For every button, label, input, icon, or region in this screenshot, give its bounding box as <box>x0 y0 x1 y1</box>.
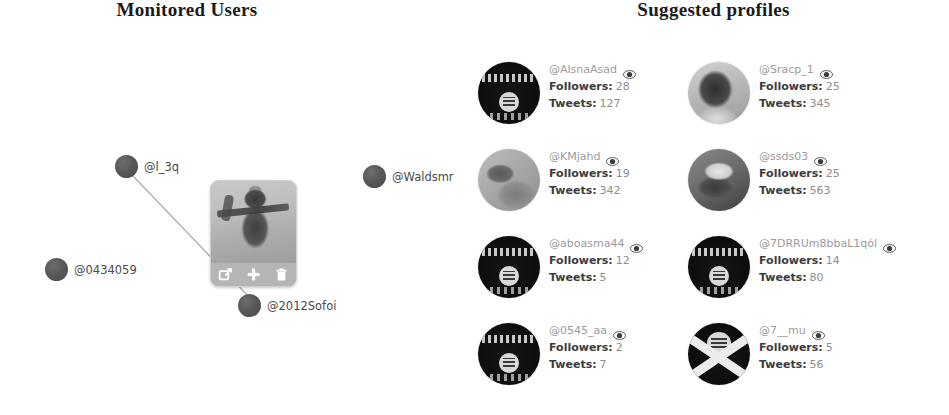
suggested-profiles-panel: Suggested profiles @AlsnaAsad Followers:… <box>470 0 949 415</box>
graph-node-label: @0434059 <box>74 263 137 277</box>
delete-node-button[interactable] <box>274 268 289 282</box>
followers-label: Followers: <box>549 167 613 180</box>
profile-info: @ssds03 Followers:25 Tweets:563 <box>759 142 840 199</box>
tweets-label: Tweets: <box>549 271 597 284</box>
tweets-label: Tweets: <box>759 184 807 197</box>
followers-value: 12 <box>616 254 630 267</box>
tweets-stat: Tweets:345 <box>759 95 840 112</box>
eye-icon[interactable] <box>623 65 636 74</box>
node-popup-toolbar <box>211 263 296 286</box>
avatar <box>478 62 540 124</box>
profile-handle: @0545_aa <box>549 322 607 339</box>
followers-label: Followers: <box>549 341 613 354</box>
followers-value: 19 <box>616 167 630 180</box>
node-profile-photo <box>211 181 296 263</box>
tweets-label: Tweets: <box>759 97 807 110</box>
suggested-profiles-grid: @AlsnaAsad Followers:28 Tweets:127 @Srac… <box>478 55 949 403</box>
eye-icon[interactable] <box>883 239 896 248</box>
tweets-stat: Tweets:5 <box>549 269 643 286</box>
monitored-users-panel: Monitored Users @l_3q @0434059 @2012Sofo… <box>0 0 470 415</box>
followers-value: 14 <box>826 254 840 267</box>
graph-node-label: @2012Sofoi <box>267 299 336 313</box>
graph-node-0434059[interactable]: @0434059 <box>45 258 137 281</box>
node-detail-popup[interactable] <box>210 180 297 287</box>
tweets-label: Tweets: <box>759 271 807 284</box>
followers-label: Followers: <box>759 80 823 93</box>
profile-card[interactable]: @ssds03 Followers:25 Tweets:563 <box>688 142 898 229</box>
avatar <box>688 323 750 385</box>
tweets-label: Tweets: <box>549 184 597 197</box>
tweets-value: 56 <box>810 358 824 371</box>
trash-icon <box>276 268 287 281</box>
tweets-value: 342 <box>600 184 621 197</box>
profile-card[interactable]: @KMjahd Followers:19 Tweets:342 <box>478 142 688 229</box>
eye-icon[interactable] <box>630 239 643 248</box>
add-node-button[interactable] <box>246 268 261 282</box>
user-node-icon <box>363 165 386 188</box>
tweets-label: Tweets: <box>549 358 597 371</box>
tweets-value: 7 <box>600 358 607 371</box>
avatar <box>478 323 540 385</box>
profile-handle-row: @AlsnaAsad <box>549 61 636 78</box>
eye-icon[interactable] <box>606 152 619 161</box>
avatar <box>688 236 750 298</box>
profile-card[interactable]: @Sracp_1 Followers:25 Tweets:345 <box>688 55 898 142</box>
user-node-icon <box>238 294 261 317</box>
followers-stat: Followers:28 <box>549 78 636 95</box>
profile-handle-row: @KMjahd <box>549 148 630 165</box>
profile-handle: @aboasma44 <box>549 235 624 252</box>
followers-value: 28 <box>616 80 630 93</box>
followers-label: Followers: <box>759 341 823 354</box>
photo-detail <box>221 194 234 221</box>
followers-stat: Followers:14 <box>759 252 896 269</box>
profile-handle: @7__mu <box>759 322 806 339</box>
profile-card[interactable]: @AlsnaAsad Followers:28 Tweets:127 <box>478 55 688 142</box>
profile-info: @AlsnaAsad Followers:28 Tweets:127 <box>549 55 636 112</box>
followers-label: Followers: <box>549 254 613 267</box>
followers-value: 2 <box>616 341 623 354</box>
avatar <box>688 62 750 124</box>
tweets-value: 563 <box>810 184 831 197</box>
tweets-value: 80 <box>810 271 824 284</box>
profile-handle-row: @Sracp_1 <box>759 61 840 78</box>
profile-info: @0545_aa Followers:2 Tweets:7 <box>549 316 626 373</box>
profile-card[interactable]: @7DRRUm8bbaL1qól Followers:14 Tweets:80 <box>688 229 898 316</box>
followers-stat: Followers:19 <box>549 165 630 182</box>
profile-handle: @ssds03 <box>759 148 808 165</box>
network-graph[interactable]: @l_3q @0434059 @2012Sofoi @Waldsmr <box>0 0 470 415</box>
profile-card[interactable]: @aboasma44 Followers:12 Tweets:5 <box>478 229 688 316</box>
profile-card[interactable]: @0545_aa Followers:2 Tweets:7 <box>478 316 688 403</box>
open-external-button[interactable] <box>218 268 233 282</box>
profile-info: @7DRRUm8bbaL1qól Followers:14 Tweets:80 <box>759 229 896 286</box>
external-link-icon <box>218 268 232 281</box>
tweets-value: 127 <box>600 97 621 110</box>
graph-node-label: @l_3q <box>144 160 179 174</box>
profile-handle: @KMjahd <box>549 148 600 165</box>
followers-value: 25 <box>826 167 840 180</box>
eye-icon[interactable] <box>820 65 833 74</box>
tweets-stat: Tweets:56 <box>759 356 833 373</box>
eye-icon[interactable] <box>812 326 825 335</box>
followers-stat: Followers:25 <box>759 78 840 95</box>
tweets-stat: Tweets:127 <box>549 95 636 112</box>
eye-icon[interactable] <box>613 326 626 335</box>
graph-node-2012Sofoi[interactable]: @2012Sofoi <box>238 294 336 317</box>
profile-handle-row: @7__mu <box>759 322 833 339</box>
tweets-value: 345 <box>810 97 831 110</box>
profile-handle: @AlsnaAsad <box>549 61 617 78</box>
followers-value: 5 <box>826 341 833 354</box>
profile-handle-row: @7DRRUm8bbaL1qól <box>759 235 896 252</box>
plus-icon <box>247 268 260 281</box>
avatar <box>478 149 540 211</box>
followers-label: Followers: <box>549 80 613 93</box>
profile-info: @7__mu Followers:5 Tweets:56 <box>759 316 833 373</box>
graph-node-label: @Waldsmr <box>392 170 454 184</box>
eye-icon[interactable] <box>814 152 827 161</box>
graph-node-Waldsmr[interactable]: @Waldsmr <box>363 165 454 188</box>
followers-stat: Followers:12 <box>549 252 643 269</box>
user-node-icon <box>115 155 138 178</box>
profile-card[interactable]: @7__mu Followers:5 Tweets:56 <box>688 316 898 403</box>
graph-node-l_3q[interactable]: @l_3q <box>115 155 179 178</box>
profile-handle-row: @aboasma44 <box>549 235 643 252</box>
followers-stat: Followers:5 <box>759 339 833 356</box>
